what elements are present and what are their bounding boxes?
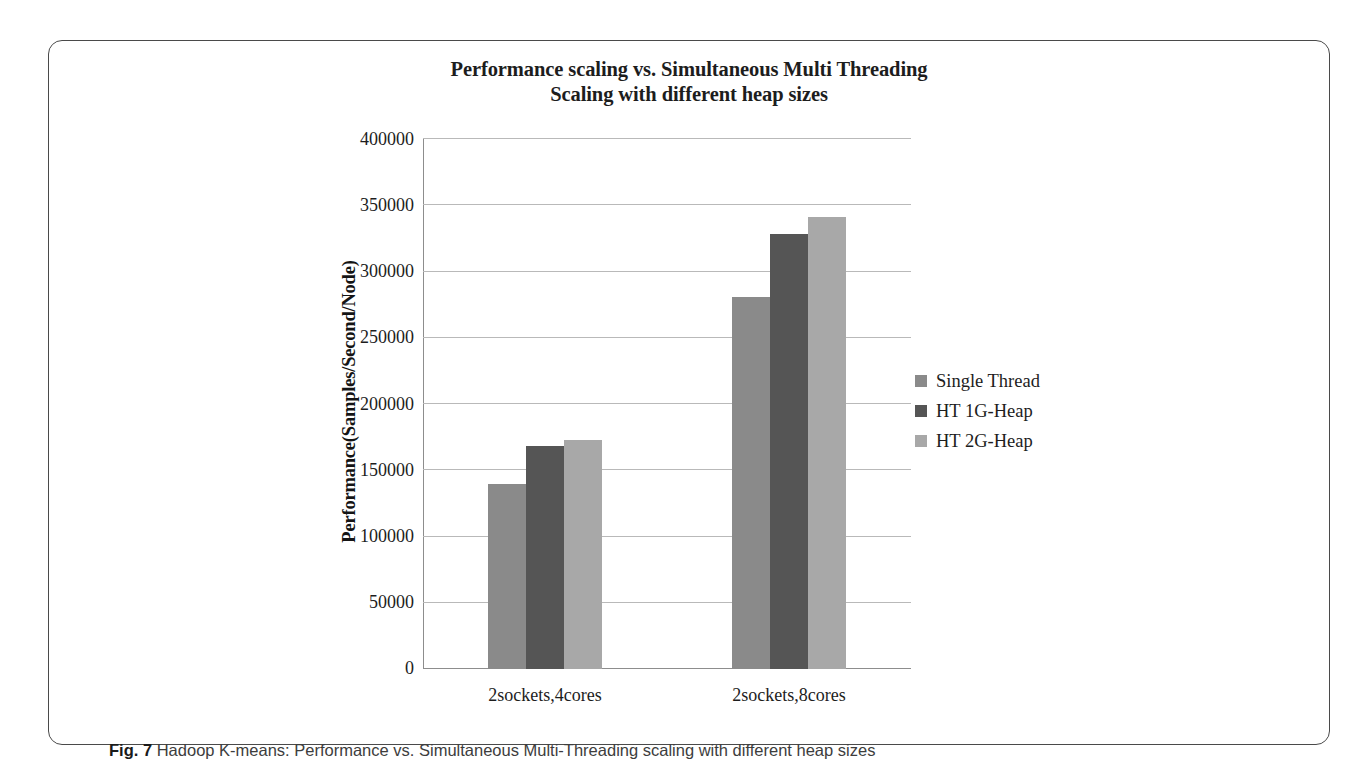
chart-title: Performance scaling vs. Simultaneous Mul…	[49, 57, 1329, 107]
y-axis-title: Performance(Samples/Second/Node)	[335, 191, 363, 611]
figure-caption-tag: Fig. 7	[109, 741, 152, 759]
legend-swatch-icon	[915, 435, 927, 447]
bar	[526, 446, 564, 669]
bar	[770, 234, 808, 669]
y-axis-tick-label: 350000	[360, 194, 414, 215]
chart-title-line-2: Scaling with different heap sizes	[49, 82, 1329, 107]
y-axis-tick-label: 400000	[360, 128, 414, 149]
y-axis-tick-label: 300000	[360, 261, 414, 282]
y-axis-tick-label: 250000	[360, 327, 414, 348]
bar-group	[732, 139, 846, 669]
y-axis-line	[423, 139, 424, 669]
x-axis-tick-label: 2sockets,4cores	[488, 685, 601, 706]
legend-swatch-icon	[915, 375, 927, 387]
chart-title-line-1: Performance scaling vs. Simultaneous Mul…	[49, 57, 1329, 82]
legend-label: Single Thread	[936, 371, 1040, 392]
bar-group	[488, 139, 602, 669]
legend-swatch-icon	[915, 405, 927, 417]
legend-item: Single Thread	[915, 366, 1040, 396]
y-axis-tick-label: 0	[405, 658, 414, 679]
plot-area: 0500001000001500002000002500003000003500…	[423, 139, 911, 669]
x-axis-tick-label: 2sockets,8cores	[732, 685, 845, 706]
y-axis-tick-label: 100000	[360, 526, 414, 547]
bar	[808, 217, 846, 669]
legend-item: HT 1G-Heap	[915, 396, 1040, 426]
legend-label: HT 1G-Heap	[936, 401, 1033, 422]
figure-caption: Fig. 7 Hadoop K-means: Performance vs. S…	[109, 741, 1349, 760]
figure-caption-text: Hadoop K-means: Performance vs. Simultan…	[157, 741, 876, 759]
y-axis-tick-label: 150000	[360, 459, 414, 480]
y-axis-tick-label: 200000	[360, 393, 414, 414]
figure-frame: Performance scaling vs. Simultaneous Mul…	[48, 40, 1330, 745]
y-axis-tick-label: 50000	[369, 592, 414, 613]
chart-legend: Single ThreadHT 1G-HeapHT 2G-Heap	[915, 366, 1040, 456]
bar	[564, 440, 602, 669]
legend-label: HT 2G-Heap	[936, 431, 1033, 452]
bar	[488, 484, 526, 670]
bar	[732, 297, 770, 669]
y-axis-title-label: Performance(Samples/Second/Node)	[339, 260, 360, 542]
legend-item: HT 2G-Heap	[915, 426, 1040, 456]
